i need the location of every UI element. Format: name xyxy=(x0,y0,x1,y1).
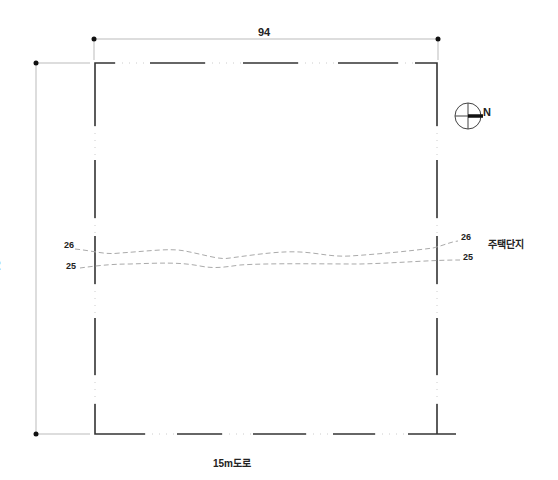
contour-26-left-label: 26 xyxy=(64,240,74,250)
boundary-dots xyxy=(95,63,437,434)
depth-dimension-label: 91 xyxy=(0,260,2,272)
dimension-lines xyxy=(36,39,438,435)
road-label: 15m도로 xyxy=(213,455,251,470)
north-arrow-icon xyxy=(455,103,483,129)
contour-25-line xyxy=(80,260,460,268)
contour-25-right-label: 25 xyxy=(463,252,473,262)
contour-lines xyxy=(75,241,460,268)
width-dimension-label: 94 xyxy=(258,26,270,38)
site-plan-drawing xyxy=(0,0,558,480)
adjacent-housing-label: 주택단지 xyxy=(488,236,524,251)
north-label: N xyxy=(483,106,491,118)
site-boundary xyxy=(95,63,456,434)
contour-26-right-label: 26 xyxy=(461,232,471,242)
contour-25-left-label: 25 xyxy=(66,261,76,271)
contour-26-line xyxy=(75,241,458,259)
